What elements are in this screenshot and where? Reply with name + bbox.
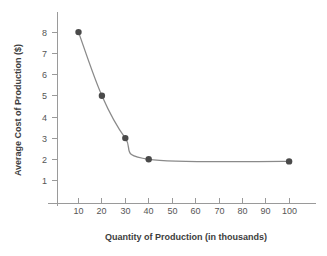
- data-point: [99, 93, 105, 99]
- data-point: [75, 29, 81, 35]
- x-axis-title: Quantity of Production (in thousands): [105, 232, 267, 242]
- y-tick-label: 3: [42, 134, 47, 144]
- x-tick-label: 10: [73, 206, 83, 216]
- y-tick-label: 8: [42, 28, 47, 38]
- data-point: [122, 135, 128, 141]
- data-point: [146, 156, 152, 162]
- x-tick-label: 20: [96, 206, 106, 216]
- y-tick-label: 2: [42, 155, 47, 165]
- x-tick-label: 100: [282, 206, 297, 216]
- y-tick-label: 6: [42, 70, 47, 80]
- y-tick-marks: [52, 33, 58, 181]
- x-tick-label: 90: [260, 206, 270, 216]
- y-tick-label: 4: [42, 113, 47, 123]
- y-tick-label: 7: [42, 49, 47, 59]
- x-tick-labels: 10 20 30 40 50 60 70 80 90 100: [73, 206, 297, 216]
- y-tick-label: 1: [42, 176, 47, 186]
- line-chart: Average Cost of Production ($) Quantity …: [0, 0, 327, 256]
- x-tick-label: 60: [190, 206, 200, 216]
- chart-screenshot: Average Cost of Production ($) Quantity …: [0, 0, 327, 256]
- x-tick-label: 70: [214, 206, 224, 216]
- y-tick-label: 5: [42, 91, 47, 101]
- y-tick-labels: 8 7 6 5 4 3 2 1: [42, 28, 47, 186]
- x-tick-label: 80: [237, 206, 247, 216]
- x-tick-label: 50: [167, 206, 177, 216]
- x-tick-label: 30: [120, 206, 130, 216]
- data-point: [286, 158, 292, 164]
- data-point-group: [75, 29, 292, 165]
- x-tick-marks: [79, 198, 290, 204]
- x-tick-label: 40: [143, 206, 153, 216]
- y-axis-title: Average Cost of Production ($): [13, 44, 23, 176]
- data-series-line: [79, 32, 290, 162]
